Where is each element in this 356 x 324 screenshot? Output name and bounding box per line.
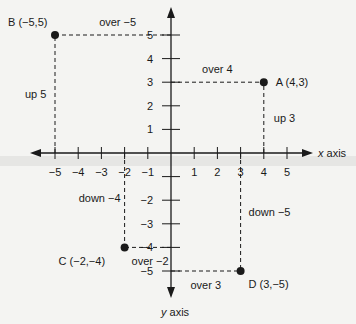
point-a — [260, 78, 268, 86]
y-tick-label: −3 — [140, 218, 153, 230]
x-tick-label: 4 — [261, 166, 267, 178]
point-label: A (4,3) — [276, 76, 308, 88]
x-tick-label: 1 — [191, 166, 197, 178]
vertical-annotation: up 3 — [274, 112, 295, 124]
x-axis-title: x axis — [317, 147, 347, 159]
vertical-annotation: down −5 — [249, 206, 291, 218]
point-label: C (−2,−4) — [59, 255, 105, 267]
x-tick-label: −5 — [49, 166, 62, 178]
y-axis-up-arrow-icon — [167, 7, 175, 18]
over-annotation: over −2 — [132, 255, 169, 267]
x-tick-label: 5 — [284, 166, 290, 178]
y-tick-label: 4 — [147, 53, 153, 65]
x-tick-label: −3 — [95, 166, 108, 178]
over-annotation: over 3 — [191, 279, 222, 291]
y-tick-label: 2 — [147, 100, 153, 112]
x-tick-label: −2 — [118, 166, 131, 178]
y-axis-down-arrow-icon — [167, 287, 175, 298]
y-tick-label: 3 — [147, 76, 153, 88]
point-label: D (3,−5) — [249, 278, 289, 290]
y-tick-label: −2 — [140, 194, 153, 206]
vertical-annotation: down −4 — [79, 192, 121, 204]
y-axis-title: y axis — [160, 306, 190, 318]
point-d — [237, 267, 245, 275]
y-tick-label: 1 — [147, 123, 153, 135]
coordinate-plane: −5−4−3−2−11234554321−2−3−4−5x axisy axis… — [0, 0, 356, 324]
y-tick-label: −4 — [140, 241, 153, 253]
x-tick-label: −4 — [72, 166, 85, 178]
point-b — [51, 31, 59, 39]
vertical-annotation: up 5 — [25, 88, 46, 100]
labels: −5−4−3−2−11234554321−2−3−4−5x axisy axis… — [8, 16, 347, 318]
axes — [30, 7, 313, 298]
x-tick-label: 2 — [214, 166, 220, 178]
over-annotation: over 4 — [202, 63, 233, 75]
x-axis-left-arrow-icon — [30, 149, 41, 157]
x-tick-label: 3 — [238, 166, 244, 178]
over-annotation: over −5 — [99, 16, 136, 28]
y-tick-label: 5 — [147, 29, 153, 41]
point-c — [121, 243, 129, 251]
x-axis-right-arrow-icon — [302, 149, 313, 157]
point-label: B (−5,5) — [8, 16, 47, 28]
x-tick-label: −1 — [142, 166, 155, 178]
